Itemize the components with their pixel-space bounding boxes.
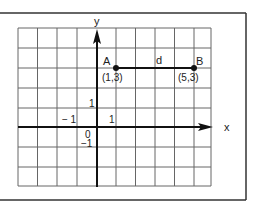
coordinate-diagram: y x A (1,3) B (5,3) d 1 − 1 1 0 −1	[0, 0, 254, 209]
x-tick-1: 1	[109, 114, 115, 125]
y-tick-neg1: −1	[81, 138, 93, 149]
y-axis-label: y	[94, 15, 100, 27]
point-b-name: B	[196, 55, 203, 67]
x-tick-neg1: − 1	[62, 114, 77, 125]
x-axis-label: x	[224, 121, 230, 133]
point-b-coord: (5,3)	[178, 72, 199, 83]
point-a	[113, 65, 119, 71]
point-a-coord: (1,3)	[102, 72, 123, 83]
distance-label-d: d	[156, 54, 162, 66]
y-tick-1: 1	[89, 98, 95, 109]
grid	[18, 28, 211, 186]
frame	[0, 13, 246, 200]
point-a-name: A	[103, 55, 111, 67]
